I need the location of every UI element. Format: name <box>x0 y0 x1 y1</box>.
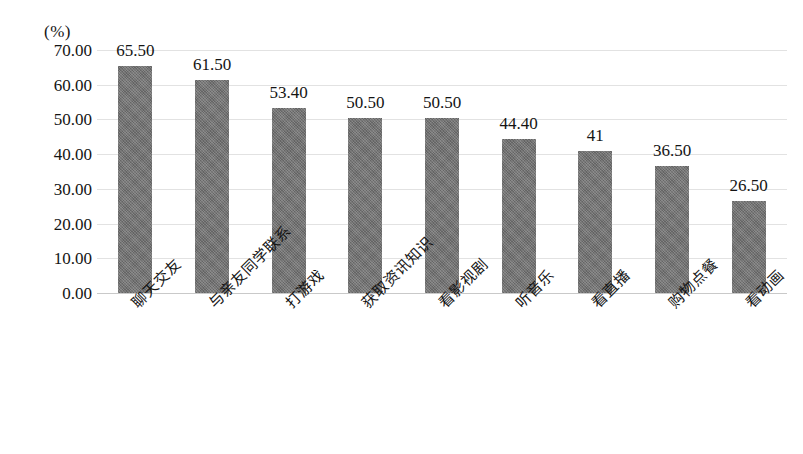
bar-value-label: 50.50 <box>325 94 405 111</box>
bar <box>578 151 612 293</box>
bar-chart: (%) 70.0060.0050.0040.0030.0020.0010.000… <box>0 0 803 454</box>
bar-value-label: 36.50 <box>632 142 712 159</box>
bar-value-label: 65.50 <box>95 42 175 59</box>
y-axis-tick-labels: 70.0060.0050.0040.0030.0020.0010.000.00 <box>28 50 92 293</box>
gridline <box>97 50 787 51</box>
y-axis-tick-label: 20.00 <box>30 216 92 233</box>
bar <box>118 66 152 293</box>
y-axis-tick-label: 10.00 <box>30 250 92 267</box>
y-axis-tick-label: 30.00 <box>30 181 92 198</box>
bar <box>348 118 382 293</box>
bar-value-label: 61.50 <box>172 56 252 73</box>
bar <box>655 166 689 293</box>
y-axis-unit-label: (%) <box>44 22 71 42</box>
bar-value-label: 53.40 <box>249 84 329 101</box>
y-axis-tick-label: 60.00 <box>30 77 92 94</box>
y-axis-tick-label: 50.00 <box>30 111 92 128</box>
plot-area: 65.5061.5053.4050.5050.5044.404136.5026.… <box>97 50 787 293</box>
x-axis-category-labels: 聊天交友与亲友同学联系打游戏获取资讯知识看影视剧听音乐看直播购物点餐看动画 <box>97 300 787 450</box>
bar-value-label: 50.50 <box>402 94 482 111</box>
bar-value-label: 41 <box>555 127 635 144</box>
y-axis-tick-label: 70.00 <box>30 42 92 59</box>
y-axis-tick-label: 40.00 <box>30 146 92 163</box>
bar <box>195 80 229 293</box>
y-axis-tick-label: 0.00 <box>30 285 92 302</box>
bar-value-label: 26.50 <box>709 177 789 194</box>
bar <box>502 139 536 293</box>
bar <box>425 118 459 293</box>
bar <box>272 108 306 293</box>
bar-value-label: 44.40 <box>479 115 559 132</box>
